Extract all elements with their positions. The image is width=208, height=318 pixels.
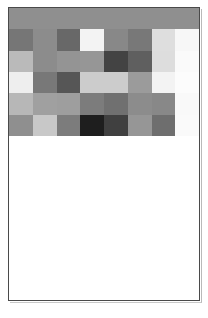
figure-caption — [96, 306, 200, 316]
heatmap-cell — [57, 93, 81, 114]
heatmap-header-band — [9, 8, 199, 29]
heatmap-cell — [128, 72, 152, 93]
heatmap-cell — [9, 29, 33, 50]
heatmap-cell — [80, 72, 104, 93]
heatmap-cell — [104, 29, 128, 50]
heatmap-cell — [104, 72, 128, 93]
heatmap-cell — [80, 51, 104, 72]
heatmap-cell — [128, 115, 152, 136]
heatmap-cell — [33, 72, 57, 93]
heatmap-cell — [175, 29, 199, 50]
heatmap-cell — [104, 51, 128, 72]
heatmap-cell — [152, 115, 176, 136]
heatmap-cell — [104, 115, 128, 136]
heatmap-cell — [33, 93, 57, 114]
heatmap-cell — [152, 93, 176, 114]
heatmap-cell — [33, 115, 57, 136]
document-frame — [8, 7, 200, 301]
heatmap-cell — [128, 51, 152, 72]
heatmap-cell — [9, 72, 33, 93]
heatmap-cell — [175, 72, 199, 93]
heatmap-cell — [80, 29, 104, 50]
heatmap-cell — [57, 115, 81, 136]
heatmap-cell — [33, 29, 57, 50]
heatmap-cell — [128, 93, 152, 114]
heatmap-cell — [57, 72, 81, 93]
heatmap-cell — [152, 51, 176, 72]
screenshot-root — [0, 0, 208, 318]
heatmap-cell — [9, 51, 33, 72]
heatmap-cell — [175, 51, 199, 72]
heatmap-cell — [33, 51, 57, 72]
heatmap-cell — [128, 29, 152, 50]
heatmap-cell — [175, 115, 199, 136]
heatmap-cell — [57, 29, 81, 50]
heatmap-cell — [152, 29, 176, 50]
heatmap-cell — [9, 93, 33, 114]
heatmap-cell — [152, 72, 176, 93]
heatmap-cell — [80, 93, 104, 114]
heatmap-cell — [9, 115, 33, 136]
heatmap-cell — [175, 93, 199, 114]
heatmap-cell — [57, 51, 81, 72]
heatmap-cell — [80, 115, 104, 136]
heatmap-cell — [104, 93, 128, 114]
page-whitespace — [9, 136, 199, 300]
